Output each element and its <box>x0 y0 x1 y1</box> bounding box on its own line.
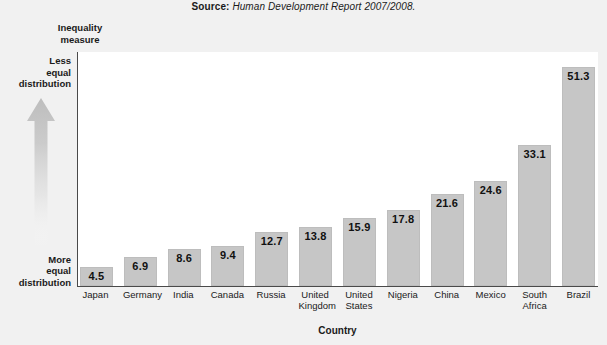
category-label-line1: Germany <box>123 289 156 300</box>
x-axis-category-label: Mexico <box>474 289 507 321</box>
y-axis-title-line2: measure <box>38 34 122 46</box>
y-axis-title: Inequality measure <box>38 22 122 46</box>
bar-slot[interactable]: 4.5 <box>80 52 113 286</box>
bar-value-label: 8.6 <box>164 252 204 264</box>
bar-value-label: 15.9 <box>339 221 379 233</box>
bar-value-label: 6.9 <box>120 260 160 272</box>
category-label-line1: Mexico <box>474 289 507 300</box>
bar-value-label: 12.7 <box>252 235 292 247</box>
x-axis-category-label: SouthAfrica <box>518 289 551 321</box>
category-label-line1: Canada <box>211 289 244 300</box>
x-axis-category-label: Japan <box>79 289 112 321</box>
more-equal-line2: equal <box>0 265 71 277</box>
bar-slot[interactable]: 17.8 <box>387 52 420 286</box>
bar-slot[interactable]: 9.4 <box>211 52 244 286</box>
bar-slot[interactable]: 13.8 <box>299 52 332 286</box>
bar-value-label: 9.4 <box>208 249 248 261</box>
bar-value-label: 21.6 <box>427 197 467 209</box>
category-label-line1: United <box>342 289 375 300</box>
bar-slot[interactable]: 12.7 <box>255 52 288 286</box>
source-note: Source: Human Development Report 2007/20… <box>0 1 607 12</box>
x-axis-category-label: UnitedStates <box>342 289 375 321</box>
category-label-line1: South <box>518 289 551 300</box>
more-equal-line1: More <box>0 254 71 266</box>
bar-slot[interactable]: 24.6 <box>474 52 507 286</box>
x-axis-category-label: Brazil <box>562 289 595 321</box>
bar-value-label: 33.1 <box>515 148 555 160</box>
x-axis-category-label: China <box>430 289 463 321</box>
inequality-direction-annotations: Less equal distribution More equal distr… <box>0 50 77 290</box>
category-label-line1: Japan <box>79 289 112 300</box>
category-label-line1: China <box>430 289 463 300</box>
bar-slot[interactable]: 6.9 <box>124 52 157 286</box>
x-axis-category-label: UnitedKingdom <box>299 289 332 321</box>
x-axis-title: Country <box>77 325 598 336</box>
less-equal-line1: Less <box>0 55 71 67</box>
x-axis-categories: JapanGermanyIndiaCanadaRussiaUnitedKingd… <box>77 289 598 321</box>
bar-slot[interactable]: 8.6 <box>168 52 201 286</box>
category-label-line1: India <box>167 289 200 300</box>
category-label-line2: States <box>342 300 375 311</box>
less-equal-line3: distribution <box>0 78 71 90</box>
bar[interactable] <box>474 181 507 286</box>
bar-value-label: 24.6 <box>471 184 511 196</box>
bar-value-label: 51.3 <box>558 70 598 82</box>
bar-slot[interactable]: 21.6 <box>431 52 464 286</box>
x-axis-category-label: Germany <box>123 289 156 321</box>
more-equal-annotation: More equal distribution <box>0 254 77 289</box>
bar[interactable] <box>518 145 551 286</box>
x-axis-category-label: Canada <box>211 289 244 321</box>
more-equal-line3: distribution <box>0 277 71 289</box>
bar-slot[interactable]: 51.3 <box>562 52 595 286</box>
source-label: Source: <box>192 1 230 12</box>
bar-value-label: 13.8 <box>296 230 336 242</box>
bar-slot[interactable]: 33.1 <box>518 52 551 286</box>
chart-plot-area: 4.56.98.69.412.713.815.917.821.624.633.1… <box>77 52 598 287</box>
x-axis-category-label: Russia <box>255 289 288 321</box>
category-label-line1: Nigeria <box>386 289 419 300</box>
bar-slot[interactable]: 15.9 <box>343 52 376 286</box>
category-label-line2: Africa <box>518 300 551 311</box>
less-equal-annotation: Less equal distribution <box>0 55 77 90</box>
x-axis-category-label: Nigeria <box>386 289 419 321</box>
bar-value-label: 4.5 <box>77 270 117 282</box>
source-text: Human Development Report 2007/2008. <box>232 1 415 12</box>
bar-value-label: 17.8 <box>383 213 423 225</box>
category-label-line1: Russia <box>255 289 288 300</box>
category-label-line1: Brazil <box>562 289 595 300</box>
category-label-line1: United <box>299 289 332 300</box>
x-axis-category-label: India <box>167 289 200 321</box>
y-axis-title-line1: Inequality <box>38 22 122 34</box>
upward-arrow-icon <box>26 98 56 248</box>
category-label-line2: Kingdom <box>299 300 332 311</box>
less-equal-line2: equal <box>0 67 71 79</box>
bar-series: 4.56.98.69.412.713.815.917.821.624.633.1… <box>78 52 598 286</box>
bar[interactable] <box>562 67 595 286</box>
